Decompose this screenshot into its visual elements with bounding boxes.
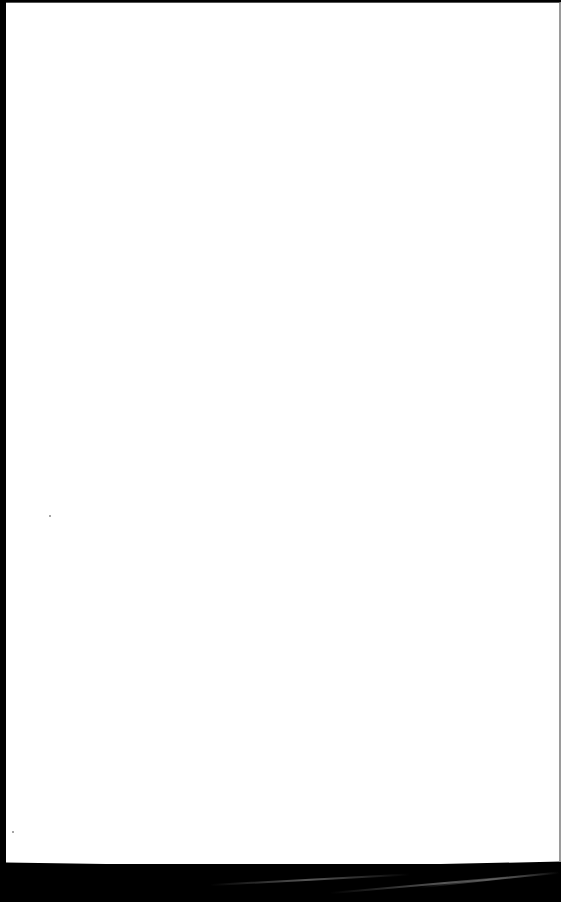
- scan-streak: [210, 874, 410, 886]
- blank-document-page: [6, 2, 561, 865]
- scan-speck: [12, 831, 14, 833]
- scan-left-edge: [0, 0, 7, 866]
- scan-bottom-edge: [0, 864, 561, 902]
- scan-speck: [49, 515, 51, 517]
- scan-streak: [420, 871, 559, 888]
